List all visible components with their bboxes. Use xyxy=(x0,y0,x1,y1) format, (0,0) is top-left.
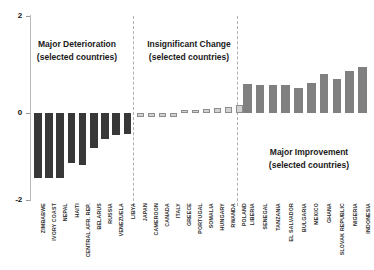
bar xyxy=(269,85,278,113)
category-label: NIGERIA xyxy=(352,203,358,226)
bar xyxy=(101,113,109,139)
y-tick-label-zero: 0 xyxy=(4,108,22,117)
bar xyxy=(148,113,155,117)
category-label: IVORY COAST xyxy=(51,203,57,241)
category-label: JAPAN xyxy=(142,203,148,221)
category-label: SOMALIA xyxy=(208,203,214,228)
bar xyxy=(79,113,87,165)
category-labels: ZIMBABWEIVORY COASTNEPALHAITICENTRAL AFR… xyxy=(0,203,374,270)
annotation-major-deterioration-title: Major Deterioration xyxy=(22,38,132,51)
bar xyxy=(345,71,354,113)
bar xyxy=(243,84,252,113)
bar xyxy=(192,110,199,114)
category-label: INDONESIA xyxy=(365,203,371,234)
bar xyxy=(181,110,188,114)
category-label: CAMEROON xyxy=(153,203,159,235)
category-label: BULGARIA xyxy=(301,203,307,232)
bar xyxy=(203,109,210,113)
category-label: CENTRAL AFR. REP. xyxy=(85,203,91,257)
bar xyxy=(170,113,177,117)
bar xyxy=(225,107,232,113)
bar xyxy=(68,113,76,163)
annotation-major-improvement: Major Improvement (selected countries) xyxy=(250,146,368,172)
bar xyxy=(281,85,290,113)
annotation-major-deterioration: Major Deterioration (selected countries) xyxy=(22,38,132,64)
category-label: SENEGAL xyxy=(262,203,268,229)
category-label: SLOVAK REPUBLIC xyxy=(339,203,345,255)
category-label: VENEZUELA xyxy=(118,203,124,236)
bar xyxy=(159,113,166,117)
category-label: MEXICO xyxy=(313,203,319,225)
category-label: PORTUGAL xyxy=(197,203,203,234)
category-label: LIBERIA xyxy=(249,203,255,225)
category-label: HAITI xyxy=(74,203,80,218)
category-label: RUSSIA xyxy=(107,203,113,224)
category-label: LIBYA xyxy=(130,203,136,219)
annotation-insignificant-change: Insignificant Change (selected countries… xyxy=(137,38,241,64)
bar xyxy=(214,108,221,113)
annotation-major-improvement-sub: (selected countries) xyxy=(250,159,368,172)
bar xyxy=(45,113,53,178)
category-label: GREECE xyxy=(186,203,192,226)
bar xyxy=(137,113,144,117)
bar xyxy=(124,113,132,134)
bar xyxy=(112,113,120,135)
bar xyxy=(294,88,303,113)
category-label: CANADA xyxy=(164,203,170,227)
annotation-insignificant-change-title: Insignificant Change xyxy=(137,38,241,51)
bar xyxy=(320,74,329,113)
annotation-major-deterioration-sub: (selected countries) xyxy=(22,51,132,64)
category-label: NEPAL xyxy=(62,203,68,221)
category-label: POLAND xyxy=(241,203,247,226)
bar-chart: 2 0 -2 Major Deterioration (selected cou… xyxy=(0,0,374,270)
category-label: TANZANIA xyxy=(275,203,281,231)
category-label: ZIMBABWE xyxy=(40,203,46,233)
y-tick-label-top: 2 xyxy=(4,11,22,20)
annotation-insignificant-change-sub: (selected countries) xyxy=(137,51,241,64)
category-label: BELARUS xyxy=(96,203,102,229)
bar xyxy=(358,67,367,113)
bar xyxy=(256,85,265,113)
bar xyxy=(34,113,42,178)
category-label: RWANDA xyxy=(230,203,236,227)
bar xyxy=(236,105,243,113)
category-label: HUNGARY xyxy=(219,203,225,230)
bar xyxy=(90,113,98,148)
category-label: GHANA xyxy=(326,203,332,223)
bar xyxy=(56,113,64,178)
bar xyxy=(307,83,316,113)
category-label: EL SALVADOR xyxy=(288,203,294,242)
bar xyxy=(333,79,342,113)
category-label: ITALY xyxy=(175,203,181,218)
annotation-major-improvement-title: Major Improvement xyxy=(250,146,368,159)
